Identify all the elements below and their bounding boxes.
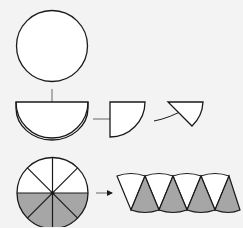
semicircle <box>16 102 88 140</box>
circle-area-diagram <box>0 0 243 227</box>
full-circle <box>17 11 88 82</box>
eighths-circle <box>17 158 88 228</box>
quarter-circle <box>110 102 145 137</box>
sector <box>168 102 203 126</box>
rearranged-sectors <box>117 174 240 213</box>
